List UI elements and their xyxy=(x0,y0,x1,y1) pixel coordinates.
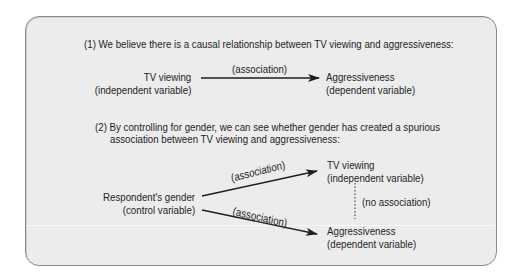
tv-viewing-target-label: TV viewing xyxy=(327,159,375,171)
independent-variable-label: (independent variable) xyxy=(94,84,191,96)
aggressiveness-role-label: (dependent variable) xyxy=(327,238,416,250)
control-variable-label: (control variable) xyxy=(123,204,195,216)
aggressiveness-target-label: Aggressiveness xyxy=(327,225,396,237)
section2-heading-line2: association between TV viewing and aggre… xyxy=(110,133,340,145)
tv-viewing-label: TV viewing xyxy=(143,71,191,83)
no-association-label: (no association) xyxy=(362,196,431,208)
dependent-variable-label: (dependent variable) xyxy=(326,84,415,96)
tv-viewing-role-label: (independent variable) xyxy=(327,172,424,184)
section1-heading: (1) We believe there is a causal relatio… xyxy=(84,38,454,50)
association-label: (association) xyxy=(232,63,287,75)
respondents-gender-label: Respondent's gender xyxy=(103,191,195,203)
aggressiveness-label: Aggressiveness xyxy=(326,71,395,83)
section2-heading-line1: (2) By controlling for gender, we can se… xyxy=(95,121,440,133)
